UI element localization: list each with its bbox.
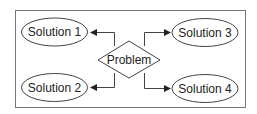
problem-node: Problem (98, 41, 160, 78)
solution-node-3: Solution 3 (172, 19, 238, 47)
edge-problem-solution-4 (145, 73, 171, 89)
problem-label: Problem (107, 53, 152, 67)
solution-node-1: Solution 1 (22, 18, 88, 46)
solution-3-label: Solution 3 (178, 26, 232, 40)
solution-1-label: Solution 1 (28, 25, 82, 39)
edge-problem-solution-3 (145, 33, 171, 47)
solution-4-label: Solution 4 (178, 82, 232, 96)
solution-node-2: Solution 2 (22, 74, 88, 102)
edge-problem-solution-1 (91, 33, 115, 47)
solution-2-label: Solution 2 (28, 81, 82, 95)
problem-solutions-diagram: Problem Solution 1 Solution 2 Solution 3… (0, 0, 257, 114)
solution-node-4: Solution 4 (172, 75, 238, 103)
edge-problem-solution-2 (91, 73, 115, 88)
